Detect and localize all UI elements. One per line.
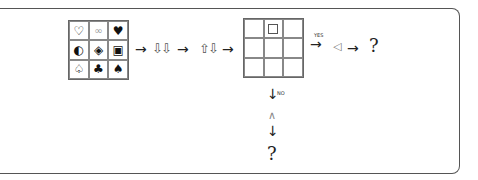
answer-cell-7 (244, 58, 264, 77)
yes-arrow: → (310, 37, 322, 51)
answer-cell-3 (283, 19, 303, 38)
grid-cell-heart-filled: ♥ (108, 21, 128, 40)
caret-up-icon: ∧ (268, 110, 276, 121)
grid-cell-spade-outline: ♤ (69, 60, 89, 79)
grid-cell-spade-filled: ♠ (108, 60, 128, 79)
grid-cell-square-in-square: ▣ (108, 40, 128, 59)
no-label: NO (277, 91, 285, 96)
arrow-right-3: → (222, 42, 234, 56)
hollow-down-arrows-icon: ⇩⇩ (152, 42, 170, 55)
answer-cell-6 (283, 38, 303, 57)
answer-cell-9 (283, 58, 303, 77)
triangle-left-icon: ◁ (333, 41, 341, 52)
grid-cell-half-circle: ◐ (69, 40, 89, 59)
no-result-question-mark: ? (267, 145, 277, 163)
answer-cell-4 (244, 38, 264, 57)
answer-cell-8 (264, 58, 284, 77)
grid-cell-infinity: ∞ (89, 21, 109, 40)
answer-cell-2 (264, 19, 284, 38)
answer-cell-1 (244, 19, 264, 38)
square-outline-icon (268, 24, 278, 34)
arrow-right-2: → (177, 42, 189, 56)
answer-grid (243, 18, 304, 78)
grid-cell-heart-outline: ♡ (69, 21, 89, 40)
grid-cell-diamond: ◈ (89, 40, 109, 59)
yes-result-question-mark: ? (369, 37, 379, 55)
answer-cell-5 (264, 38, 284, 57)
symbol-grid: ♡ ∞ ♥ ◐ ◈ ▣ ♤ ♣ ♠ (68, 20, 129, 80)
arrow-down-2: ↓ (267, 124, 279, 138)
arrow-right-1: → (135, 42, 147, 56)
arrow-right-4: → (347, 41, 359, 55)
grid-cell-club: ♣ (89, 60, 109, 79)
hollow-up-down-arrows-icon: ⇧⇩ (199, 42, 217, 55)
